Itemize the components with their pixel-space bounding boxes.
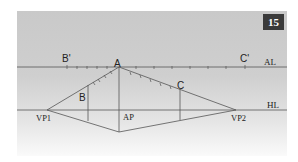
label-ap: AP	[123, 112, 134, 122]
label-c-prime: C'	[240, 53, 249, 64]
figure-number-badge: 15	[263, 14, 284, 30]
diagonal-tick-marks	[93, 71, 171, 89]
line-a-vp1	[47, 67, 119, 110]
label-vp1: VP1	[36, 113, 51, 123]
label-hl: HL	[267, 100, 279, 110]
perspective-diagram: B' A C' AL B C HL VP1 AP VP2	[0, 0, 298, 162]
label-b: B	[79, 92, 86, 103]
line-vp2-bottom	[119, 110, 236, 132]
label-a: A	[114, 58, 121, 69]
label-al: AL	[264, 57, 276, 67]
line-vp1-bottom	[47, 110, 119, 132]
label-c: C	[177, 80, 184, 91]
label-b-prime: B'	[62, 53, 71, 64]
label-vp2: VP2	[231, 113, 246, 123]
